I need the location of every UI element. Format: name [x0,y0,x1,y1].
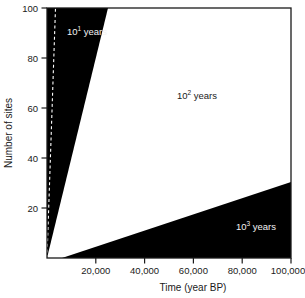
annotation-10-3: 103years [236,220,276,232]
annotation-10-3-exponent: 3 [247,220,251,227]
sites-vs-time-chart: 100 80 60 40 20 20,000 40,000 60,000 80,… [0,0,305,298]
annotation-10-1: 101years [67,25,107,37]
annotation-10-2-exponent: 2 [188,89,192,96]
x-axis-title: Time (year BP) [160,282,227,293]
annotation-10-1-base: 10 [67,26,78,37]
y-axis-ticks [42,8,48,208]
y-tick-label-20: 20 [27,203,38,214]
x-tick-label-100000: 100,000 [271,265,305,276]
x-tick-label-80000: 80,000 [228,265,257,276]
x-tick-label-20000: 20,000 [81,265,110,276]
y-tick-label-60: 60 [27,103,38,114]
chart-figure: 100 80 60 40 20 20,000 40,000 60,000 80,… [0,0,305,298]
annotation-10-3-base: 10 [236,221,247,232]
annotation-10-1-exponent: 1 [78,25,82,32]
x-tick-label-60000: 60,000 [179,265,208,276]
annotation-10-1-unit: years [84,26,107,37]
y-tick-label-40: 40 [27,153,38,164]
x-axis-ticks [96,258,291,264]
annotation-10-3-unit: years [253,221,276,232]
y-tick-label-100: 100 [22,3,38,14]
y-tick-label-80: 80 [27,53,38,64]
annotation-10-2-unit: years [194,90,217,101]
x-tick-label-40000: 40,000 [130,265,159,276]
annotation-10-2-base: 10 [177,90,188,101]
y-axis-title: Number of sites [3,98,14,168]
annotation-10-2: 102years [177,89,217,101]
